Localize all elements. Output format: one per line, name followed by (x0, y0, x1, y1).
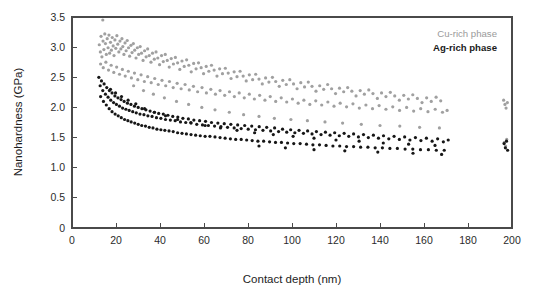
data-point (403, 135, 406, 138)
data-point (119, 98, 122, 101)
data-point (273, 126, 276, 129)
data-point (130, 51, 133, 54)
data-point (392, 135, 395, 138)
data-point (112, 44, 115, 47)
data-point (126, 102, 129, 105)
data-point (110, 64, 113, 67)
data-point (159, 128, 162, 131)
y-tick-label: 0 (59, 222, 65, 234)
data-point (227, 71, 230, 74)
data-point (158, 63, 161, 66)
data-point (269, 129, 272, 132)
data-point (264, 76, 267, 79)
data-point (100, 55, 103, 58)
data-point (104, 93, 107, 96)
data-point (139, 73, 142, 76)
data-point (143, 80, 146, 83)
data-point (194, 67, 197, 70)
data-point (192, 62, 195, 65)
data-point (439, 99, 442, 102)
data-point (117, 50, 120, 53)
data-point (398, 99, 401, 102)
data-point (146, 114, 149, 117)
data-point (319, 133, 322, 136)
data-point (240, 138, 243, 141)
data-point (99, 50, 102, 53)
data-point (151, 126, 154, 129)
nanohardness-scatter-figure: 02040608010012014016018020000.51.01.52.0… (0, 0, 539, 292)
data-point (149, 109, 152, 112)
data-point (102, 66, 105, 69)
data-point (97, 76, 100, 79)
data-point (274, 80, 277, 83)
data-point (99, 62, 102, 65)
data-point (133, 49, 136, 52)
data-point (172, 86, 175, 89)
data-point (367, 88, 370, 91)
data-point (384, 95, 387, 98)
data-point (398, 138, 401, 141)
data-point (412, 109, 415, 112)
data-point (274, 100, 277, 103)
data-point (411, 147, 414, 150)
x-tick-label: 140 (371, 234, 389, 246)
data-point (123, 41, 126, 44)
data-point (284, 146, 287, 149)
data-point (291, 97, 294, 100)
data-point (310, 85, 313, 88)
data-point (107, 33, 110, 36)
data-point (101, 18, 104, 21)
data-point (289, 128, 292, 131)
data-point (106, 37, 109, 40)
data-point (108, 52, 111, 55)
data-point (187, 103, 190, 106)
data-point (213, 135, 216, 138)
data-point (393, 94, 396, 97)
data-point (134, 102, 137, 105)
data-point (367, 136, 370, 139)
data-point (180, 59, 183, 62)
data-point (288, 78, 291, 81)
data-point (148, 126, 151, 129)
data-point (121, 106, 124, 109)
data-point (127, 99, 130, 102)
data-point (116, 96, 119, 99)
data-point (245, 79, 248, 82)
data-point (292, 142, 295, 145)
data-point (333, 131, 336, 134)
data-point (112, 71, 115, 74)
data-point (181, 117, 184, 120)
data-point (407, 143, 410, 146)
data-point (131, 110, 134, 113)
data-point (128, 109, 131, 112)
data-point (358, 140, 361, 143)
data-point (341, 122, 344, 125)
data-point (411, 152, 414, 155)
data-point (163, 96, 166, 99)
data-point (130, 76, 133, 79)
data-point (213, 108, 216, 111)
data-point (371, 107, 374, 110)
legend-entry-ag-rich: Ag-rich phase (433, 42, 497, 53)
data-point (189, 133, 192, 136)
data-point (110, 49, 113, 52)
data-point (228, 111, 231, 114)
data-point (218, 136, 221, 139)
data-point (342, 90, 345, 93)
data-point (338, 134, 341, 137)
data-point (362, 133, 365, 136)
data-point (118, 105, 121, 108)
data-point (160, 79, 163, 82)
data-point (324, 131, 327, 134)
data-point (156, 56, 159, 59)
data-point (343, 132, 346, 135)
data-point (238, 70, 241, 73)
data-point (218, 89, 221, 92)
x-tick-label: 60 (198, 234, 210, 246)
data-point (302, 132, 305, 135)
data-point (257, 77, 260, 80)
data-point (295, 87, 298, 90)
data-point (198, 119, 201, 122)
data-point (178, 68, 181, 71)
data-point (299, 142, 302, 145)
